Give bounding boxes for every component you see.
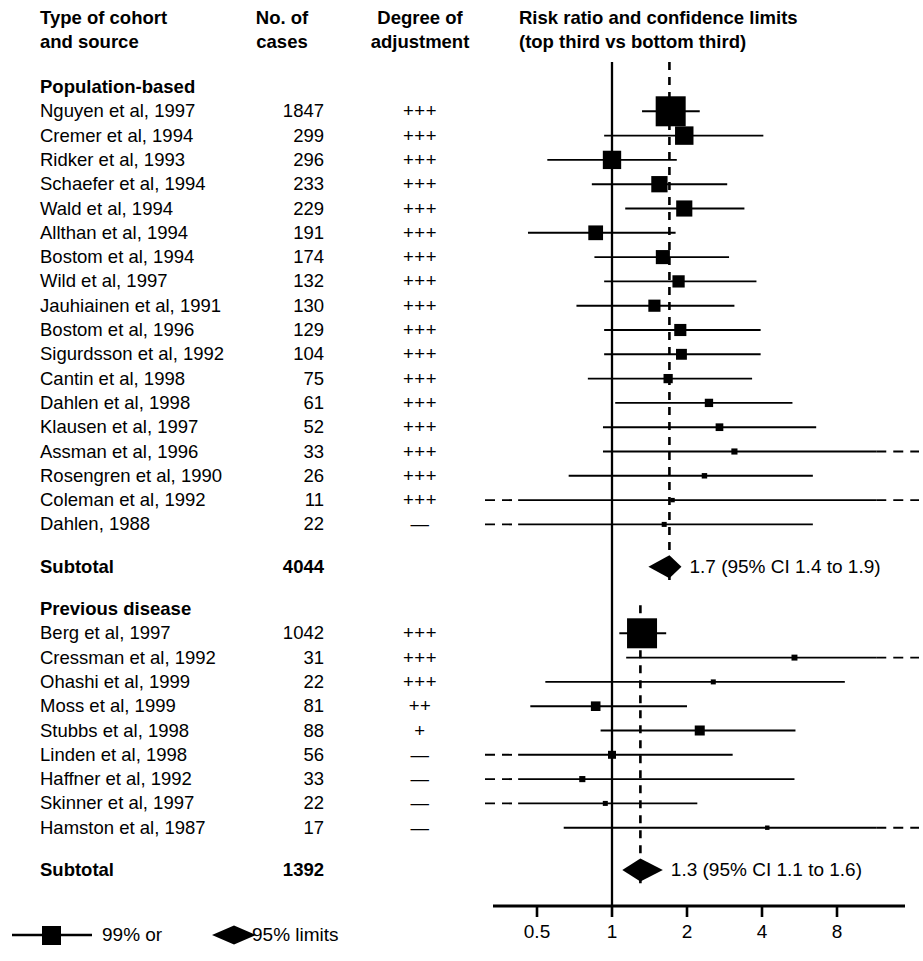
x-axis-tick-label: 4 bbox=[732, 922, 792, 942]
study-label: Klausen et al, 1997 bbox=[40, 416, 198, 437]
study-adjustment: +++ bbox=[360, 125, 480, 146]
study-case-count: 129 bbox=[212, 319, 324, 340]
group-heading-row: Previous disease bbox=[0, 598, 923, 622]
study-label: Schaefer et al, 1994 bbox=[40, 173, 206, 194]
study-adjustment: +++ bbox=[360, 222, 480, 243]
study-case-count: 33 bbox=[212, 768, 324, 789]
study-label: Rosengren et al, 1990 bbox=[40, 465, 222, 486]
study-adjustment: +++ bbox=[360, 368, 480, 389]
study-adjustment: +++ bbox=[360, 149, 480, 170]
study-label: Jauhiainen et al, 1991 bbox=[40, 295, 221, 316]
legend-icons bbox=[6, 918, 476, 952]
study-case-count: 104 bbox=[212, 343, 324, 364]
table-row: Bostom et al, 1996129+++ bbox=[0, 319, 923, 343]
subtotal-label: Subtotal bbox=[40, 859, 114, 880]
study-adjustment: +++ bbox=[360, 416, 480, 437]
study-adjustment: +++ bbox=[360, 246, 480, 267]
table-row: Cressman et al, 199231+++ bbox=[0, 647, 923, 671]
study-case-count: 88 bbox=[212, 720, 324, 741]
study-adjustment: +++ bbox=[360, 392, 480, 413]
study-adjustment: — bbox=[360, 744, 480, 765]
study-label: Dahlen, 1988 bbox=[40, 513, 150, 534]
study-adjustment: — bbox=[360, 513, 480, 534]
summary-result-label: 1.3 (95% CI 1.1 to 1.6) bbox=[671, 859, 862, 880]
study-adjustment: +++ bbox=[360, 465, 480, 486]
table-row: Wald et al, 1994229+++ bbox=[0, 198, 923, 222]
summary-result-label: 1.7 (95% CI 1.4 to 1.9) bbox=[689, 556, 880, 577]
table-row: Jauhiainen et al, 1991130+++ bbox=[0, 295, 923, 319]
x-axis-tick-label: 0.5 bbox=[507, 922, 567, 942]
x-axis-tick-label: 1 bbox=[582, 922, 642, 942]
study-case-count: 1847 bbox=[212, 100, 324, 121]
study-case-count: 233 bbox=[212, 173, 324, 194]
study-adjustment: +++ bbox=[360, 671, 480, 692]
study-case-count: 229 bbox=[212, 198, 324, 219]
study-label: Nguyen et al, 1997 bbox=[40, 100, 195, 121]
table-row: Stubbs et al, 199888+ bbox=[0, 720, 923, 744]
study-case-count: 31 bbox=[212, 647, 324, 668]
study-case-count: 11 bbox=[212, 489, 324, 510]
study-adjustment: — bbox=[360, 768, 480, 789]
study-label: Wild et al, 1997 bbox=[40, 270, 168, 291]
legend: 99% or 95% limits bbox=[6, 918, 476, 952]
table-row: Skinner et al, 199722— bbox=[0, 792, 923, 816]
table-row: Assman et al, 199633+++ bbox=[0, 441, 923, 465]
study-label: Skinner et al, 1997 bbox=[40, 792, 194, 813]
study-adjustment: +++ bbox=[360, 173, 480, 194]
study-adjustment: — bbox=[360, 817, 480, 838]
table-row: Bostom et al, 1994174+++ bbox=[0, 246, 923, 270]
forest-plot-figure: Type of cohort and source No. of cases D… bbox=[0, 0, 923, 961]
study-case-count: 1042 bbox=[212, 622, 324, 643]
table-row: Nguyen et al, 19971847+++ bbox=[0, 100, 923, 124]
study-adjustment: +++ bbox=[360, 198, 480, 219]
group-heading-label: Population-based bbox=[40, 76, 195, 97]
study-case-count: 17 bbox=[212, 817, 324, 838]
study-label: Dahlen et al, 1998 bbox=[40, 392, 190, 413]
column-header-cases: No. of cases bbox=[232, 6, 332, 54]
table-row: Schaefer et al, 1994233+++ bbox=[0, 173, 923, 197]
study-adjustment: ++ bbox=[360, 695, 480, 716]
study-label: Cremer et al, 1994 bbox=[40, 125, 193, 146]
study-case-count: 22 bbox=[212, 671, 324, 692]
group-heading-row: Population-based bbox=[0, 76, 923, 100]
study-adjustment: +++ bbox=[360, 295, 480, 316]
study-case-count: 130 bbox=[212, 295, 324, 316]
table-row: Berg et al, 19971042+++ bbox=[0, 622, 923, 646]
study-label: Haffner et al, 1992 bbox=[40, 768, 192, 789]
x-axis-tick-label: 8 bbox=[807, 922, 867, 942]
study-adjustment: +++ bbox=[360, 270, 480, 291]
table-row: Coleman et al, 199211+++ bbox=[0, 489, 923, 513]
study-adjustment: +++ bbox=[360, 441, 480, 462]
study-label: Stubbs et al, 1998 bbox=[40, 720, 189, 741]
study-adjustment: +++ bbox=[360, 319, 480, 340]
study-label: Cressman et al, 1992 bbox=[40, 647, 216, 668]
column-header-adjustment: Degree of adjustment bbox=[355, 6, 485, 54]
study-adjustment: +++ bbox=[360, 343, 480, 364]
table-row: Ridker et al, 1993296+++ bbox=[0, 149, 923, 173]
table-row: Allthan et al, 1994191+++ bbox=[0, 222, 923, 246]
table-row: Cantin et al, 199875+++ bbox=[0, 368, 923, 392]
table-row: Hamston et al, 198717— bbox=[0, 817, 923, 841]
study-case-count: 33 bbox=[212, 441, 324, 462]
table-row: Klausen et al, 199752+++ bbox=[0, 416, 923, 440]
table-row: Dahlen, 198822— bbox=[0, 513, 923, 537]
study-label: Berg et al, 1997 bbox=[40, 622, 171, 643]
study-label: Cantin et al, 1998 bbox=[40, 368, 185, 389]
study-adjustment: +++ bbox=[360, 647, 480, 668]
study-case-count: 61 bbox=[212, 392, 324, 413]
study-case-count: 56 bbox=[212, 744, 324, 765]
study-label: Hamston et al, 1987 bbox=[40, 817, 206, 838]
table-row: Linden et al, 199856— bbox=[0, 744, 923, 768]
table-row: Wild et al, 1997132+++ bbox=[0, 270, 923, 294]
legend-label-99: 99% or bbox=[102, 924, 162, 946]
study-case-count: 22 bbox=[212, 792, 324, 813]
legend-diamond-icon bbox=[212, 926, 256, 945]
subtotal-label: Subtotal bbox=[40, 556, 114, 577]
study-label: Assman et al, 1996 bbox=[40, 441, 198, 462]
table-row: Sigurdsson et al, 1992104+++ bbox=[0, 343, 923, 367]
legend-square-icon bbox=[42, 926, 61, 945]
column-header-study: Type of cohort and source bbox=[40, 6, 167, 54]
study-case-count: 299 bbox=[212, 125, 324, 146]
study-case-count: 174 bbox=[212, 246, 324, 267]
study-label: Bostom et al, 1996 bbox=[40, 319, 194, 340]
